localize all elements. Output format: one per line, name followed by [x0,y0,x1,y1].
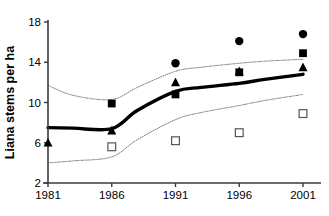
x-axis-tick-label: 1996 [226,189,252,201]
x-axis-tick-label: 1986 [99,189,125,201]
data-point-filled-circle [235,37,243,45]
data-point-open-square [299,110,307,118]
x-axis-tick-label: 2001 [290,189,316,201]
chart-canvas: 2610141819811986199119962001Liana stems … [0,0,329,216]
data-point-open-square [172,137,180,145]
y-axis-tick-label: 14 [28,56,41,68]
y-axis-tick-label: 2 [35,177,41,189]
data-point-filled-circle [299,30,307,38]
liana-stems-chart: 2610141819811986199119962001Liana stems … [0,0,329,216]
data-point-open-square [108,143,116,151]
y-axis-tick-label: 18 [28,16,41,28]
data-point-filled-circle [171,59,179,67]
y-axis-tick-label: 6 [35,137,41,149]
x-axis-tick-label: 1991 [163,189,189,201]
data-point-filled-triangle [299,62,308,71]
data-point-filled-triangle [171,78,180,87]
data-point-filled-square [108,100,116,108]
data-point-filled-square [299,49,307,57]
y-axis-title: Liana stems per ha [3,45,17,159]
data-point-open-square [235,129,243,137]
data-point-filled-square [172,91,180,99]
x-axis-tick-label: 1981 [35,189,61,201]
y-axis-tick-label: 10 [28,97,41,109]
